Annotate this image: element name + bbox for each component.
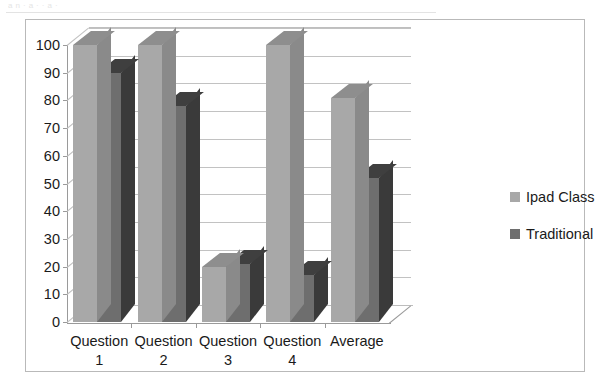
legend-item-traditional[interactable]: Traditional [510, 227, 595, 241]
value-axis-label: 40 [44, 203, 60, 219]
bar-side-face [162, 27, 176, 322]
bar-ipad-class[interactable] [202, 267, 226, 322]
value-axis-label: 0 [52, 314, 60, 330]
bar-ipad-class[interactable] [266, 45, 290, 322]
bar-side-face [186, 88, 200, 322]
value-axis-label: 50 [44, 176, 60, 192]
category-axis-tick [196, 323, 197, 328]
bar-side-face [355, 80, 369, 322]
bar-front-face [202, 267, 226, 322]
bar-ipad-class[interactable] [331, 98, 355, 322]
category-axis-tick [325, 323, 326, 328]
category-label-line: Average [311, 332, 403, 351]
category-label-line: 4 [246, 351, 338, 370]
floor-right-edge [389, 305, 411, 323]
legend-item-ipad-class[interactable]: Ipad Class [510, 190, 595, 204]
bar-front-face [73, 45, 97, 322]
value-axis-label: 30 [44, 231, 60, 247]
bar-front-face [266, 45, 290, 322]
legend-swatch-icon [510, 192, 520, 202]
chart-frame: 1009080706050403020100 Ipad Class Tradit… [25, 19, 585, 372]
gridline [89, 28, 411, 29]
bar-side-face [379, 160, 393, 322]
chart-legend: Ipad Class Traditional [510, 190, 595, 264]
category-label: Average [311, 332, 403, 351]
value-axis-label: 80 [44, 92, 60, 108]
scan-horizontal-rule [6, 12, 436, 13]
category-axis-tick [260, 323, 261, 328]
legend-label: Traditional [526, 227, 593, 241]
bar-ipad-class[interactable] [73, 45, 97, 322]
category-axis [67, 323, 391, 324]
bar-ipad-class[interactable] [138, 45, 162, 322]
value-axis-label: 70 [44, 120, 60, 136]
value-axis-label: 60 [44, 148, 60, 164]
legend-swatch-icon [510, 229, 520, 239]
category-axis-tick [131, 323, 132, 328]
bar-front-face [138, 45, 162, 322]
legend-label: Ipad Class [526, 190, 595, 204]
bar-side-face [121, 55, 135, 322]
value-axis-label: 90 [44, 65, 60, 81]
value-axis-label: 100 [36, 37, 60, 53]
plot-area [67, 45, 389, 322]
bar-side-face [97, 27, 111, 322]
scan-artifact-text: a n · a · · a · [8, 1, 428, 10]
bar-front-face [331, 98, 355, 322]
value-axis-label: 20 [44, 259, 60, 275]
value-axis-label: 10 [44, 286, 60, 302]
bar-side-face [290, 27, 304, 322]
